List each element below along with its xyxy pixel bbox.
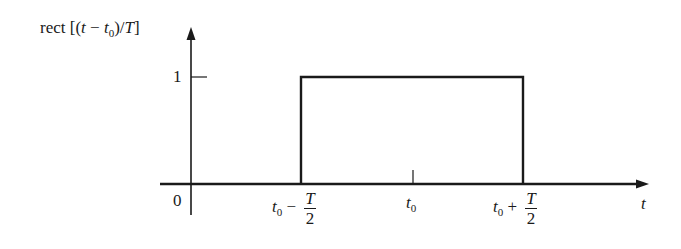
x-tick-label-right: t0 + T2 xyxy=(493,190,537,227)
x-left-fraction: T2 xyxy=(304,190,315,227)
y-tick-label-1: 1 xyxy=(173,68,182,85)
x-right-fraction: T2 xyxy=(525,190,536,227)
x-left-op: − xyxy=(282,197,300,216)
y-label-prefix: rect [( xyxy=(40,18,81,37)
x-right-den: 2 xyxy=(525,209,536,227)
y-axis-label: rect [(t − t0)/T] xyxy=(40,19,140,39)
rect-pulse-curve xyxy=(301,77,523,184)
y-label-slash: )/ xyxy=(114,18,124,37)
x-tick-label-left: t0 − T2 xyxy=(272,190,316,227)
x-center-sub: 0 xyxy=(411,202,417,214)
x-axis-label: t xyxy=(641,195,646,212)
x-right-op: + xyxy=(503,197,521,216)
origin-label: 0 xyxy=(173,192,182,209)
y-axis-arrowhead-icon xyxy=(187,27,196,40)
y-label-minus: − xyxy=(86,18,104,37)
x-right-num: T xyxy=(525,190,536,209)
y-label-T: T xyxy=(125,18,134,37)
x-left-den: 2 xyxy=(304,209,315,227)
x-tick-label-center: t0 xyxy=(406,194,416,214)
y-label-suffix: ] xyxy=(134,18,140,37)
x-axis-arrowhead-icon xyxy=(636,180,649,189)
x-left-num: T xyxy=(304,190,315,209)
